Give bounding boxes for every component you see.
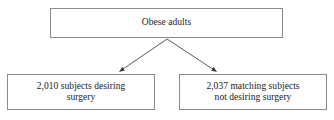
node-subjects-desiring-surgery-label: 2,010 subjects desiring surgery <box>33 81 130 104</box>
node-matching-subjects-not-desiring-surgery[interactable]: 2,037 matching subjects not desiring sur… <box>179 74 327 110</box>
edge-root-to-right <box>167 39 217 72</box>
node-obese-adults-label: Obese adults <box>138 17 195 29</box>
node-subjects-desiring-surgery[interactable]: 2,010 subjects desiring surgery <box>7 74 155 110</box>
edge-root-to-left <box>120 39 168 72</box>
flowchart-canvas: Obese adults 2,010 subjects desiring sur… <box>0 0 334 120</box>
node-matching-subjects-not-desiring-surgery-label: 2,037 matching subjects not desiring sur… <box>202 81 303 104</box>
node-obese-adults[interactable]: Obese adults <box>50 8 283 38</box>
